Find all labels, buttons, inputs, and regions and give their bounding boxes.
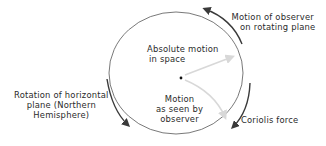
label-rotation: Rotation of horizontal plane (Northern H…: [14, 90, 109, 120]
label-line: Motion of observer: [230, 12, 315, 22]
label-line: plane (Northern: [14, 100, 109, 110]
center-point: [180, 77, 183, 80]
label-seen-motion: Motion as seen by observer: [156, 94, 203, 124]
label-line: Hemisphere): [14, 110, 109, 120]
label-coriolis-force: Coriolis force: [241, 115, 298, 125]
label-absolute-motion: Absolute motion in space: [147, 44, 219, 64]
label-line: Rotation of horizontal: [14, 90, 109, 100]
label-line: in space: [147, 54, 219, 64]
label-observer-motion: Motion of observer on rotating plane: [230, 12, 315, 32]
label-line: Absolute motion: [147, 44, 219, 54]
label-line: observer: [156, 114, 203, 124]
label-line: on rotating plane: [230, 22, 315, 32]
label-line: Motion: [156, 94, 203, 104]
coriolis-diagram: Motion of observer on rotating plane Abs…: [0, 0, 326, 146]
label-line: as seen by: [156, 104, 203, 114]
label-line: Coriolis force: [241, 115, 298, 125]
